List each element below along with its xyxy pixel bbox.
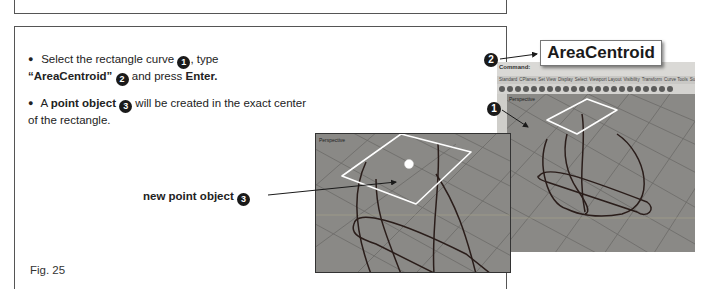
zoomed-viewport: Perspective — [315, 133, 511, 273]
callout-label: new point object — [143, 190, 234, 202]
viewport-grid — [507, 94, 695, 252]
marker-2-icon: 2 — [116, 73, 129, 86]
toolbar-tool-icon[interactable] — [635, 86, 641, 92]
toolbar-tabs: StandardCPlanesSet ViewDisplaySelectView… — [497, 76, 695, 84]
toolbar-tool-icon[interactable] — [507, 86, 513, 92]
step1-text: Select the rectangle curve — [41, 53, 174, 65]
toolbar-icons — [497, 84, 695, 94]
command-label: Command: — [499, 64, 530, 70]
point-object-icon — [405, 160, 414, 169]
point-object-callout: new point object 3 — [143, 190, 250, 206]
toolbar-tool-icon[interactable] — [515, 86, 521, 92]
toolbar-tool-icon[interactable] — [611, 86, 617, 92]
marker-3-icon: 3 — [119, 100, 132, 113]
marker-1-icon: 1 — [487, 102, 501, 116]
toolbar-tab[interactable]: Curve Tools — [664, 76, 688, 84]
toolbar-tab[interactable]: Set View — [538, 76, 556, 84]
step1-text-b: , type — [190, 53, 218, 65]
toolbar-tool-icon[interactable] — [651, 86, 657, 92]
toolbar-tool-icon[interactable] — [555, 86, 561, 92]
command-name: AreaCentroid — [34, 70, 107, 82]
point-object-term: point object — [51, 97, 116, 109]
toolbar-tool-icon[interactable] — [547, 86, 553, 92]
rhino-screenshot: Command: StandardCPlanesSet ViewDisplayS… — [497, 62, 695, 252]
toolbar-tool-icon[interactable] — [659, 86, 665, 92]
toolbar-tab[interactable]: Transform — [642, 76, 662, 84]
toolbar-tool-icon[interactable] — [587, 86, 593, 92]
toolbar-tool-icon[interactable] — [539, 86, 545, 92]
step2-text: A — [41, 97, 51, 109]
toolbar-tool-icon[interactable] — [563, 86, 569, 92]
key-enter: Enter. — [185, 70, 217, 82]
previous-figure-frame — [14, 0, 507, 14]
viewport-label: Perspective — [509, 96, 535, 102]
toolbar-tool-icon[interactable] — [619, 86, 625, 92]
instruction-step-1: ● Select the rectangle curve 1, type “Ar… — [28, 52, 308, 86]
toolbar-tab[interactable]: Viewport Layout — [589, 76, 621, 84]
step1-text-c: and press — [129, 70, 186, 82]
toolbar-tab[interactable]: Surface Tools — [690, 76, 695, 84]
toolbar-tool-icon[interactable] — [579, 86, 585, 92]
toolbar-tool-icon[interactable] — [523, 86, 529, 92]
marker-2-icon: 2 — [484, 53, 498, 67]
toolbar-tab[interactable]: CPlanes — [519, 76, 536, 84]
marker-1-icon: 1 — [177, 56, 190, 69]
bullet-icon: ● — [28, 52, 38, 66]
bullet-icon: ● — [28, 96, 38, 110]
toolbar-tool-icon[interactable] — [667, 86, 673, 92]
toolbar-tab[interactable]: Standard — [499, 76, 517, 84]
toolbar-tool-icon[interactable] — [571, 86, 577, 92]
toolbar-tab[interactable]: Select — [575, 76, 588, 84]
command-popup: AreaCentroid — [540, 40, 662, 66]
toolbar-tool-icon[interactable] — [531, 86, 537, 92]
quote-close: ” — [107, 70, 113, 82]
instruction-step-2: ● A point object 3 will be created in th… — [28, 96, 308, 127]
toolbar-tool-icon[interactable] — [627, 86, 633, 92]
zoomed-viewport-label: Perspective — [319, 137, 345, 143]
toolbar-tool-icon[interactable] — [595, 86, 601, 92]
toolbar-tool-icon[interactable] — [499, 86, 505, 92]
toolbar-tab[interactable]: Display — [558, 76, 573, 84]
command-popup-text: AreaCentroid — [547, 43, 655, 63]
perspective-viewport: Perspective — [507, 94, 695, 252]
marker-3-icon: 3 — [237, 193, 250, 206]
toolbar-tab[interactable]: Visibility — [623, 76, 639, 84]
toolbar-tool-icon[interactable] — [603, 86, 609, 92]
instructions: ● Select the rectangle curve 1, type “Ar… — [28, 52, 308, 137]
figure-caption: Fig. 25 — [30, 264, 65, 276]
zoomed-viewport-grid — [316, 134, 511, 273]
toolbar-tool-icon[interactable] — [643, 86, 649, 92]
